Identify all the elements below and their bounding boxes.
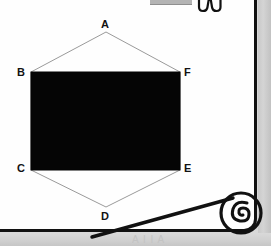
vertex-label-b: B — [17, 67, 25, 78]
vertex-label-f: F — [184, 67, 191, 78]
vertex-label-a: A — [101, 19, 109, 30]
vertex-label-c: C — [17, 163, 25, 174]
curl-inner-spiral — [232, 202, 249, 221]
inscribed-rectangle — [31, 72, 180, 170]
screenshot-root: A B C D E F A I I A — [0, 0, 271, 246]
curl-outer-circle — [221, 193, 261, 233]
curl-fold-line — [92, 198, 233, 237]
footer-ghost-text: A I I A — [132, 234, 252, 245]
vertex-label-e: E — [184, 163, 191, 174]
